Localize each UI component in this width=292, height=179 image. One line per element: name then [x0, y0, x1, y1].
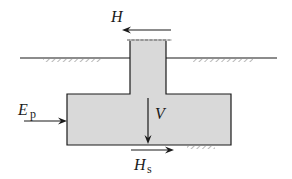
label-H: H: [110, 8, 124, 25]
footing-diagram: H E p V H s: [0, 0, 292, 179]
ground-hatch-left: [43, 59, 101, 62]
label-Hs: H: [133, 156, 147, 173]
force-H-arrow: [122, 27, 171, 34]
ground-hatch-right: [193, 59, 253, 62]
label-Ep: E: [17, 101, 28, 118]
label-Hs-subscript: s: [147, 162, 152, 176]
label-Ep-subscript: p: [30, 107, 36, 121]
base-hatch: [187, 146, 215, 149]
footing-body: [67, 40, 231, 145]
force-Hs-arrow: [131, 147, 174, 154]
